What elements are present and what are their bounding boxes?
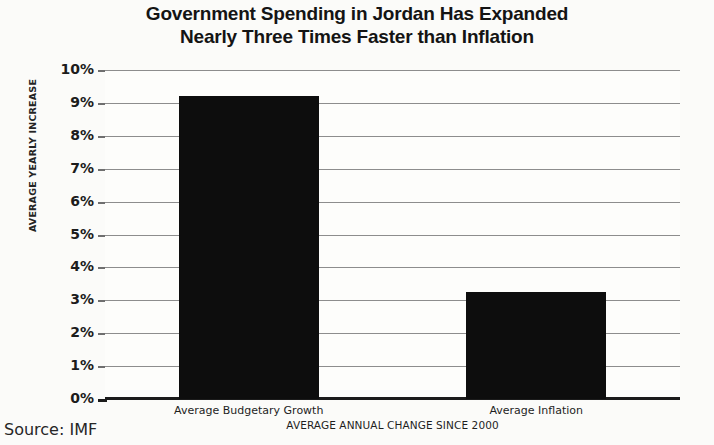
y-axis-tick-label: 1%	[38, 357, 94, 373]
y-axis-tick-label: 5%	[38, 226, 94, 242]
y-axis-tick-label: 7%	[38, 160, 94, 176]
x-axis-title: AVERAGE ANNUAL CHANGE SINCE 2000	[105, 419, 680, 431]
plot-area	[105, 70, 680, 399]
y-axis-title: AVERAGE YEARLY INCREASE	[27, 56, 38, 256]
bar	[179, 96, 319, 399]
y-axis-tick-label: 4%	[38, 258, 94, 274]
chart-container: AVERAGE YEARLY INCREASE 10%9%8%7%6%5%4%3…	[0, 0, 714, 445]
x-axis-tick-label: Average Inflation	[416, 404, 656, 417]
y-axis-tick-label: 8%	[38, 127, 94, 143]
y-axis-tick-label: 9%	[38, 94, 94, 110]
bar	[466, 292, 606, 399]
y-axis-tick-label: 6%	[38, 193, 94, 209]
y-axis-tick-label: 3%	[38, 291, 94, 307]
y-axis-tick-label: 10%	[38, 61, 94, 77]
y-axis-tick-label: 0%	[38, 390, 94, 406]
gridline	[105, 70, 680, 71]
source-note: Source: IMF	[4, 420, 97, 439]
x-axis-tick-label: Average Budgetary Growth	[129, 404, 369, 417]
y-axis-tick-label: 2%	[38, 324, 94, 340]
